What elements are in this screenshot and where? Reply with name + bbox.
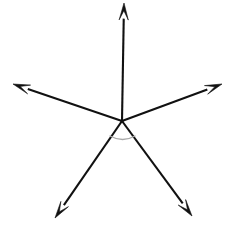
ray-group-upper-left [13, 84, 122, 121]
ray-lower-right-line [122, 121, 183, 203]
ray-up-line [122, 19, 124, 121]
ray-group-lower-left [55, 121, 122, 218]
angle-arc-bottom [110, 136, 135, 140]
ray-group-upper-right [122, 84, 222, 121]
ray-up-arrowhead [119, 3, 128, 20]
ray-group-lower-right [122, 121, 192, 216]
ray-group-up [119, 3, 128, 121]
ray-lower-left-line [64, 121, 122, 205]
ray-lower-right-arrowhead [178, 200, 192, 216]
rays-diagram-svg [0, 0, 231, 225]
vertex-point [120, 119, 123, 122]
ray-lower-left-arrowhead [55, 201, 68, 218]
geometry-figure-canvas [0, 0, 231, 225]
ray-upper-left-line [28, 89, 122, 121]
ray-upper-right-line [122, 89, 207, 121]
